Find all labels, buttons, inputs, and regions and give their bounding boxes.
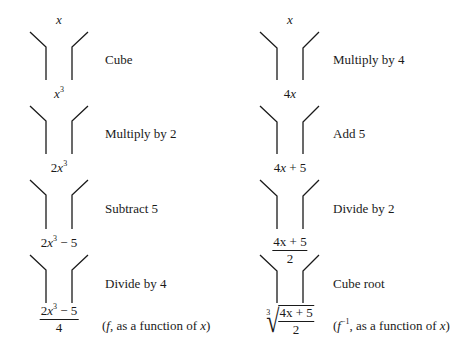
fraction-denominator: 2	[278, 322, 313, 337]
funnel-right-3	[260, 180, 319, 229]
left-input-x: x	[56, 12, 62, 28]
left-result-f-fraction: 2x3 − 5 4	[40, 304, 79, 335]
left-step-subtract-5: Subtract 5	[105, 201, 158, 217]
fraction-denominator: 2	[272, 251, 307, 266]
left-step-divide-by-4: Divide by 4	[105, 276, 166, 292]
fraction: 2x3 − 5 4	[40, 304, 79, 335]
cube-root: 3 √ 4x + 5 2	[262, 305, 314, 337]
funnel-right-1	[260, 32, 319, 80]
right-result-4x-plus-5: 4x + 5	[274, 160, 307, 176]
fraction-denominator: 4	[40, 320, 79, 335]
fraction: 4x + 5 2	[278, 305, 313, 337]
left-output-note: (f, as a function of x)	[102, 318, 210, 334]
right-result-fraction: 4x + 5 2	[272, 235, 307, 266]
fraction-numerator: 4x + 5	[278, 306, 313, 322]
left-step-cube: Cube	[105, 52, 132, 68]
right-step-add-5: Add 5	[333, 126, 365, 142]
right-input-x: x	[287, 12, 293, 28]
left-step-multiply-by-2: Multiply by 2	[105, 126, 177, 142]
left-result-2x-cubed-minus-5: 2x3 − 5	[41, 235, 78, 251]
right-step-multiply-by-4: Multiply by 4	[333, 52, 405, 68]
right-result-4x: 4x	[284, 86, 296, 102]
funnel-left-4	[30, 255, 88, 303]
left-result-2x-cubed: 2x3	[51, 160, 67, 176]
right-step-divide-by-2: Divide by 2	[333, 201, 394, 217]
funnel-left-3	[30, 180, 88, 229]
fraction-numerator: 4x + 5	[272, 235, 307, 251]
radical-sign-icon: √	[266, 305, 279, 337]
funnel-right-2	[260, 106, 319, 154]
fraction-numerator: 2x3 − 5	[40, 304, 79, 320]
funnel-left-1	[30, 32, 88, 80]
right-step-cube-root: Cube root	[333, 276, 385, 292]
funnel-left-2	[30, 106, 88, 154]
right-result-cube-root: 3 √ 4x + 5 2	[262, 305, 314, 339]
right-output-note: (f−1, as a function of x)	[333, 318, 450, 334]
left-result-x-cubed: x3	[54, 86, 64, 102]
fraction: 4x + 5 2	[272, 235, 307, 266]
